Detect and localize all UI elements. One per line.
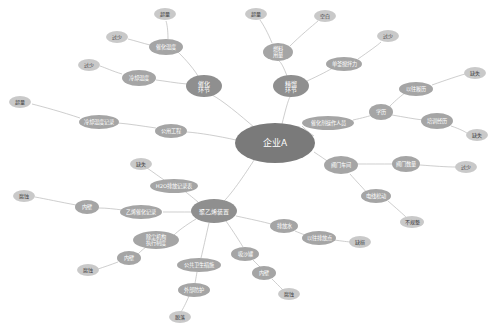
- node-shape[interactable]: [169, 311, 191, 323]
- node-shape[interactable]: [231, 247, 259, 261]
- node-shape[interactable]: [421, 113, 453, 129]
- node-shape[interactable]: [361, 189, 391, 203]
- node-n16[interactable]: 冷却温度记录: [79, 115, 119, 129]
- node-shape[interactable]: [150, 179, 198, 193]
- edge-n11-L8: [451, 126, 468, 134]
- edge-n0-n1: [212, 95, 255, 128]
- node-L6[interactable]: 过少: [377, 30, 399, 42]
- node-shape[interactable]: [326, 57, 362, 71]
- node-n21[interactable]: 内壁: [117, 251, 141, 265]
- node-n24[interactable]: 吸沙罐: [231, 247, 259, 261]
- node-n23[interactable]: 外部防护: [178, 283, 210, 297]
- node-L10[interactable]: 不规整: [400, 216, 424, 228]
- node-shape[interactable]: [75, 200, 99, 214]
- node-L13[interactable]: 脱落: [169, 311, 191, 323]
- node-n17[interactable]: H2O排放记录表: [150, 179, 198, 193]
- node-shape[interactable]: [120, 205, 162, 219]
- node-shape[interactable]: [78, 59, 100, 71]
- node-shape[interactable]: [191, 199, 237, 223]
- node-shape[interactable]: [235, 123, 315, 163]
- node-shape[interactable]: [302, 116, 354, 130]
- node-shape[interactable]: [178, 283, 210, 297]
- node-L15[interactable]: 腐蚀: [13, 190, 35, 202]
- node-shape[interactable]: [252, 266, 276, 280]
- edge-n9-n11: [392, 115, 423, 120]
- node-shape[interactable]: [177, 258, 221, 272]
- node-n20[interactable]: 除尘机构执行制度: [133, 231, 179, 249]
- node-n7[interactable]: 单釜搅拌力: [326, 57, 362, 71]
- node-shape[interactable]: [245, 8, 267, 20]
- node-n10[interactable]: 以往履历: [399, 82, 433, 96]
- node-n1[interactable]: 催化环节: [186, 75, 222, 97]
- edge-n10-L7: [432, 74, 465, 85]
- node-n25[interactable]: 内壁: [252, 266, 276, 280]
- node-L4[interactable]: 超量: [245, 8, 267, 20]
- edge-n1-n5: [156, 80, 187, 84]
- node-shape[interactable]: [466, 129, 488, 141]
- mind-map-canvas[interactable]: 企业A催化环节精馏环节聚乙烯装置催化温度冷却温度燃料用量单釜搅拌力催化剂操作人员…: [0, 0, 493, 330]
- node-n22[interactable]: 公共卫生措施: [177, 258, 221, 272]
- node-L16[interactable]: 缺失: [130, 158, 152, 170]
- node-L12[interactable]: 腐蚀: [278, 288, 300, 300]
- node-n12[interactable]: 阀门车间: [324, 156, 358, 174]
- node-L1[interactable]: 超量: [154, 8, 176, 20]
- node-shape[interactable]: [130, 158, 152, 170]
- node-L11[interactable]: 缺损: [349, 236, 371, 248]
- node-n13[interactable]: 阀门数量: [392, 156, 420, 172]
- nodes-layer[interactable]: 企业A催化环节精馏环节聚乙烯装置催化温度冷却温度燃料用量单釜搅拌力催化剂操作人员…: [9, 8, 488, 323]
- node-L3[interactable]: 过少: [78, 59, 100, 71]
- node-n15[interactable]: 公用工程: [155, 124, 187, 138]
- node-n11[interactable]: 培训经历: [421, 113, 453, 129]
- node-shape[interactable]: [9, 96, 31, 108]
- node-n9[interactable]: 学历: [369, 104, 393, 120]
- node-n5[interactable]: 冷却温度: [122, 70, 156, 86]
- node-L9[interactable]: 过少: [455, 161, 477, 173]
- node-shape[interactable]: [278, 288, 300, 300]
- node-n6[interactable]: 燃料用量: [263, 43, 293, 61]
- node-shape[interactable]: [392, 156, 420, 172]
- node-L17[interactable]: 超量: [9, 96, 31, 108]
- node-n8[interactable]: 催化剂操作人员: [302, 116, 354, 130]
- node-L2[interactable]: 过少: [106, 31, 128, 43]
- node-shape[interactable]: [155, 124, 187, 138]
- node-L8[interactable]: 缺失: [466, 129, 488, 141]
- edge-n8-n9: [353, 115, 372, 120]
- node-n19[interactable]: 内壁: [75, 200, 99, 214]
- edge-n17-L16: [147, 168, 164, 180]
- node-shape[interactable]: [314, 10, 336, 22]
- node-L7[interactable]: 缺失: [464, 67, 486, 79]
- node-shape[interactable]: [149, 39, 183, 55]
- node-n14[interactable]: 电线松动: [361, 189, 391, 203]
- node-n18[interactable]: 乙烯催化记录: [120, 205, 162, 219]
- node-shape[interactable]: [122, 70, 156, 86]
- node-shape[interactable]: [377, 30, 399, 42]
- node-shape[interactable]: [273, 75, 309, 97]
- node-shape[interactable]: [77, 264, 99, 276]
- node-shape[interactable]: [324, 156, 358, 174]
- node-shape[interactable]: [349, 236, 371, 248]
- node-shape[interactable]: [133, 231, 179, 249]
- node-shape[interactable]: [302, 231, 336, 245]
- node-shape[interactable]: [263, 43, 293, 61]
- node-n27[interactable]: 以往排放点: [302, 231, 336, 245]
- node-shape[interactable]: [186, 75, 222, 97]
- node-shape[interactable]: [79, 115, 119, 129]
- node-shape[interactable]: [399, 82, 433, 96]
- node-shape[interactable]: [464, 67, 486, 79]
- node-shape[interactable]: [270, 219, 298, 233]
- node-n0[interactable]: 企业A: [235, 123, 315, 163]
- node-shape[interactable]: [13, 190, 35, 202]
- node-shape[interactable]: [106, 31, 128, 43]
- node-shape[interactable]: [154, 8, 176, 20]
- node-shape[interactable]: [455, 161, 477, 173]
- node-n3[interactable]: 聚乙烯装置: [191, 199, 237, 223]
- node-L5[interactable]: 空白: [314, 10, 336, 22]
- node-n2[interactable]: 精馏环节: [273, 75, 309, 97]
- node-n26[interactable]: 排放水: [270, 219, 298, 233]
- node-shape[interactable]: [117, 251, 141, 265]
- node-shape[interactable]: [400, 216, 424, 228]
- node-L14[interactable]: 腐蚀: [77, 264, 99, 276]
- edge-n3-n26: [236, 216, 271, 224]
- node-n4[interactable]: 催化温度: [149, 39, 183, 55]
- node-shape[interactable]: [369, 104, 393, 120]
